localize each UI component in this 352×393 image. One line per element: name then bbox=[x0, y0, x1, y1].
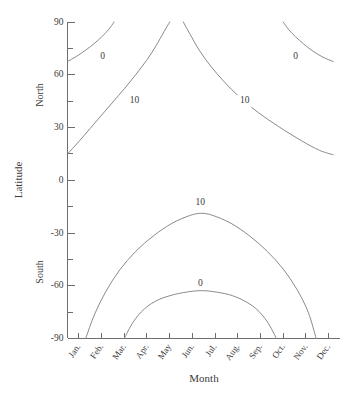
y-tick-label: -90 bbox=[51, 333, 64, 343]
y-tick-label: 30 bbox=[54, 122, 64, 132]
contour-line bbox=[68, 22, 170, 154]
x-tick-label: Aug. bbox=[223, 342, 241, 362]
contour-line bbox=[124, 291, 276, 339]
y-axis-title: Latitude bbox=[12, 162, 24, 199]
contour-label: 0 bbox=[293, 51, 298, 61]
y-tick-label: 60 bbox=[54, 69, 64, 79]
contour-label: 10 bbox=[196, 197, 206, 207]
x-tick-label: Nov. bbox=[292, 342, 310, 362]
x-tick-label: Feb. bbox=[88, 342, 105, 361]
x-tick-label: Mar. bbox=[110, 342, 128, 361]
x-axis-title: Month bbox=[189, 372, 219, 384]
contour-line bbox=[183, 22, 333, 155]
x-tick-label: Jun. bbox=[179, 342, 196, 360]
x-tick-label: Jan. bbox=[66, 342, 82, 359]
x-tick-label: Oct. bbox=[270, 342, 287, 360]
y-tick-label: 0 bbox=[59, 175, 64, 185]
x-axis-tick-labels: Jan.Feb.Mar.Apr.MayJun.Jul.Aug.Sep.Oct.N… bbox=[66, 342, 332, 363]
north-hemisphere-label: North bbox=[34, 83, 45, 106]
x-tick-label: Sep. bbox=[247, 342, 264, 361]
y-tick-label: -60 bbox=[51, 280, 64, 290]
y-tick-label: 90 bbox=[54, 17, 64, 27]
contour-lines bbox=[68, 22, 334, 339]
y-tick-label: -30 bbox=[51, 228, 64, 238]
y-axis-tick-labels: 9060300-30-60-90 bbox=[51, 17, 64, 344]
x-axis-ticks bbox=[79, 333, 329, 339]
x-tick-label: Apr. bbox=[133, 342, 150, 361]
south-hemisphere-label: South bbox=[34, 260, 45, 283]
contour-label: 0 bbox=[198, 278, 203, 288]
contour-plot-figure: 9060300-30-60-90 Jan.Feb.Mar.Apr.MayJun.… bbox=[0, 0, 352, 393]
contour-label: 0 bbox=[100, 51, 105, 61]
y-axis-ticks bbox=[68, 22, 75, 339]
plot-canvas: 9060300-30-60-90 Jan.Feb.Mar.Apr.MayJun.… bbox=[0, 0, 352, 393]
contour-label: 10 bbox=[240, 95, 250, 105]
x-tick-label: Dec. bbox=[314, 342, 332, 361]
x-tick-label: May bbox=[156, 342, 174, 362]
contour-line bbox=[86, 213, 316, 338]
x-tick-label: Jul. bbox=[203, 342, 219, 358]
contour-label: 10 bbox=[130, 95, 140, 105]
